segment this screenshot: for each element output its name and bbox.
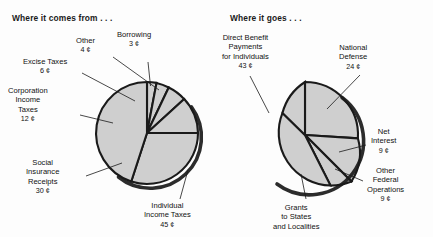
label-corporation-line2: Income	[15, 95, 40, 104]
pie-slices-outlays	[279, 82, 360, 186]
label-otherfed-line1: Other	[376, 166, 395, 175]
label-other-federal-operations: Other Federal Operations 9 ¢	[367, 166, 404, 204]
label-defense-line2: Defense	[339, 52, 367, 61]
label-individual-line2: Income Taxes	[144, 210, 191, 219]
label-grants-line1: Grants	[285, 203, 308, 212]
pie-slices-revenue	[96, 82, 198, 184]
label-interest-line1: Net	[378, 127, 390, 136]
figure-canvas: Where it comes from . . .	[0, 0, 433, 237]
label-social-insurance-receipts: Social Insurance Receipts 30 ¢	[26, 158, 59, 196]
label-other: Other 4 ¢	[76, 36, 95, 55]
label-other-name: Other	[76, 36, 95, 45]
label-interest-amount: 9 ¢	[371, 146, 396, 155]
label-individual-amount: 45 ¢	[144, 220, 191, 229]
label-borrowing: Borrowing 3 ¢	[117, 30, 151, 49]
label-corporation-amount: 12 ¢	[8, 114, 48, 123]
label-excise-taxes-name: Excise Taxes	[23, 57, 67, 66]
label-excise-taxes-amount: 6 ¢	[23, 66, 67, 75]
label-interest-line2: Interest	[371, 136, 396, 145]
label-direct-amount: 43 ¢	[222, 61, 269, 70]
label-borrowing-amount: 3 ¢	[117, 39, 151, 48]
chart-panel-revenue: Where it comes from . . .	[0, 0, 218, 237]
label-other-amount: 4 ¢	[76, 45, 95, 54]
label-otherfed-amount: 9 ¢	[367, 194, 404, 203]
label-social-line2: Insurance	[26, 167, 59, 176]
label-corporation-income-taxes: Corporation Income Taxes 12 ¢	[8, 86, 48, 124]
label-otherfed-line2: Federal	[373, 175, 399, 184]
slice-national-defense	[305, 82, 358, 138]
label-national-defense: National Defense 24 ¢	[339, 43, 367, 71]
label-corporation-line3: Taxes	[18, 105, 38, 114]
label-excise-taxes: Excise Taxes 6 ¢	[23, 57, 67, 76]
label-net-interest: Net Interest 9 ¢	[371, 127, 396, 155]
leader-line-direct-benefit	[250, 76, 269, 113]
label-social-amount: 30 ¢	[26, 186, 59, 195]
label-defense-line1: National	[339, 43, 367, 52]
label-individual-income-taxes: Individual Income Taxes 45 ¢	[144, 201, 191, 229]
label-grants-line3: and Localities	[273, 222, 319, 231]
label-individual-line1: Individual	[151, 201, 183, 210]
label-otherfed-line3: Operations	[367, 185, 404, 194]
label-social-line3: Receipts	[28, 177, 58, 186]
label-direct-benefit-payments: Direct Benefit Payments for Individuals …	[222, 33, 269, 71]
label-grants-line2: to States	[281, 212, 311, 221]
label-defense-amount: 24 ¢	[339, 62, 367, 71]
label-direct-line2: Payments	[229, 42, 263, 51]
label-direct-line3: for Individuals	[222, 52, 269, 61]
label-grants-to-states: Grants to States and Localities	[273, 203, 319, 231]
label-corporation-line1: Corporation	[8, 86, 48, 95]
label-direct-line1: Direct Benefit	[223, 33, 269, 42]
label-borrowing-name: Borrowing	[117, 30, 151, 39]
chart-panel-outlays: Where it goes . . .	[215, 0, 433, 237]
label-social-line1: Social	[32, 158, 53, 167]
